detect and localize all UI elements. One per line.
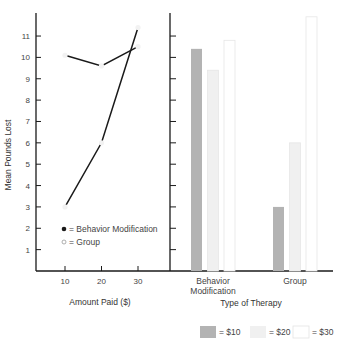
y-tick-label: 6 [26,139,31,148]
data-point-marker [62,204,67,209]
category-label-behavior-line2: Modification [190,286,236,296]
x-tick-label: 30 [134,277,143,286]
data-point-marker [99,63,104,68]
y-tick-label: 9 [26,75,31,84]
y-axis-title: Mean Pounds Lost [3,119,13,191]
bar-group-20 [290,143,301,271]
y-tick-label: 11 [22,32,31,41]
y-tick-label: 4 [26,182,31,191]
legend-behavior-modification: = Behavior Modification [69,224,158,234]
y-tick-label: 10 [21,53,30,62]
legend-20: = $20 [269,327,291,337]
bar-behavior-modification-20 [208,70,219,271]
left-x-axis-title: Amount Paid ($) [69,297,131,307]
y-tick-label: 8 [26,96,31,105]
legend-group: = Group [69,237,100,247]
data-point-marker [62,53,67,58]
bar-behavior-modification-30 [224,40,235,271]
y-tick-label: 2 [26,224,31,233]
x-tick-label: 20 [97,277,106,286]
legend-30: = $30 [312,327,334,337]
data-point-marker [99,140,104,145]
legend-swatch-30 [293,326,309,338]
y-tick-label: 5 [26,160,31,169]
y-tick-label: 7 [26,117,31,126]
legend-open-circle-icon [62,240,66,244]
bar-behavior-modification-10 [191,49,202,271]
data-point-marker [135,25,140,30]
legend-10: = $10 [219,327,241,337]
y-tick-label: 1 [26,246,31,255]
chart-figure: 1234567891011102030 Mean Pounds Lost Amo… [0,0,345,347]
x-tick-label: 10 [61,277,70,286]
bar-group-30 [306,17,317,271]
legend-swatch-10 [200,326,216,338]
bar-group-10 [273,207,284,271]
bar-chart-panel [170,13,333,271]
legend-filled-circle-icon [62,227,67,232]
legend-swatch-20 [250,326,266,338]
line-series-behavior-modification [65,28,138,207]
data-point-marker [135,44,140,49]
category-label-group: Group [283,276,307,286]
right-x-axis-title: Type of Therapy [220,298,282,308]
y-tick-label: 3 [26,203,31,212]
category-label-behavior-line1: Behavior [196,276,230,286]
